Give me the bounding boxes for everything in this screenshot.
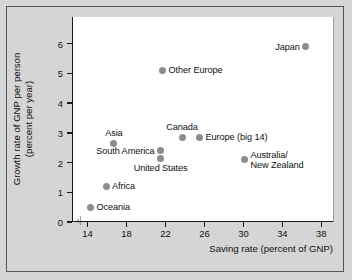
x-tick-label: 22 xyxy=(160,228,170,239)
x-tick xyxy=(126,222,127,227)
y-tick xyxy=(67,192,72,193)
y-tick-label: 3 xyxy=(58,127,63,138)
data-point xyxy=(241,156,248,163)
scatter-plot-figure: 14182226303438 0123456 JapanOther Europe… xyxy=(0,0,352,280)
data-point xyxy=(159,67,166,74)
y-axis-label-line1: Growth rate of GNP per person xyxy=(11,53,22,186)
data-point-label: Australia/ New Zealand xyxy=(250,149,303,170)
data-point-label: Canada xyxy=(166,122,198,133)
data-point-label: Oceania xyxy=(97,202,131,213)
data-point-label: Other Europe xyxy=(169,65,223,76)
data-point-label: United States xyxy=(134,163,188,174)
y-tick xyxy=(67,73,72,74)
y-tick xyxy=(67,162,72,163)
plot-frame-right xyxy=(333,17,334,222)
x-tick xyxy=(165,222,166,227)
x-tick-label: 18 xyxy=(121,228,131,239)
axis-break-icon: ‹| xyxy=(77,213,82,225)
data-point xyxy=(87,204,94,211)
y-tick xyxy=(67,221,72,222)
data-point-label: Japan xyxy=(275,41,300,52)
x-tick-label: 34 xyxy=(277,228,287,239)
data-point-label: Africa xyxy=(112,181,135,192)
x-tick xyxy=(204,222,205,227)
data-point-label: Asia xyxy=(105,128,122,139)
y-axis-label: Growth rate of GNP per person(percent pe… xyxy=(11,53,34,186)
y-tick-label: 1 xyxy=(58,187,63,198)
x-tick xyxy=(282,222,283,227)
data-point xyxy=(157,155,164,162)
y-axis-label-line2: (percent per year) xyxy=(22,53,34,186)
x-tick xyxy=(87,222,88,227)
x-tick-label: 26 xyxy=(199,228,209,239)
x-tick-label: 38 xyxy=(316,228,326,239)
y-tick-label: 0 xyxy=(58,217,63,228)
y-tick-label: 4 xyxy=(58,98,63,109)
data-point xyxy=(179,134,186,141)
data-point-label: Europe (big 14) xyxy=(206,132,268,143)
data-point-label: South America xyxy=(96,145,154,156)
x-axis-label: Saving rate (percent of GNP) xyxy=(209,243,333,254)
y-tick-label: 2 xyxy=(58,157,63,168)
y-tick xyxy=(67,102,72,103)
x-tick xyxy=(243,222,244,227)
y-tick xyxy=(67,132,72,133)
data-point xyxy=(103,183,110,190)
y-tick-label: 5 xyxy=(58,68,63,79)
y-tick-label: 6 xyxy=(58,38,63,49)
x-tick-label: 14 xyxy=(82,228,92,239)
x-tick xyxy=(321,222,322,227)
data-point xyxy=(196,134,203,141)
y-tick xyxy=(67,43,72,44)
x-tick-label: 30 xyxy=(238,228,248,239)
